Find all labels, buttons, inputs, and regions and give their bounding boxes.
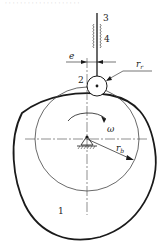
roller-pin: [96, 85, 99, 88]
base-radius-label: rb: [116, 143, 124, 154]
follower-label-3: 3: [103, 13, 109, 23]
offset-arrow-right-icon: [97, 60, 103, 64]
cam-label-1: 1: [58, 206, 64, 216]
guide-label-4: 4: [104, 34, 110, 44]
top-caption: · · · · · · · · · · · · · · · · · · · ·: [5, 0, 79, 6]
offset-arrow-left-icon: [81, 60, 87, 64]
roller-radius-label: rr: [136, 59, 144, 70]
cam-profile: [14, 93, 156, 239]
roller-label-2: 2: [78, 75, 84, 85]
cam-mechanism-diagram: · · · · · · · · · · · · · · · · · · · · …: [0, 0, 167, 249]
base-radius-arrowhead-icon: [126, 155, 134, 160]
roller-radius-arrowhead-icon: [106, 76, 112, 81]
offset-label-e: e: [69, 51, 74, 61]
base-radius-line: [87, 139, 131, 159]
omega-label: ω: [107, 124, 115, 134]
